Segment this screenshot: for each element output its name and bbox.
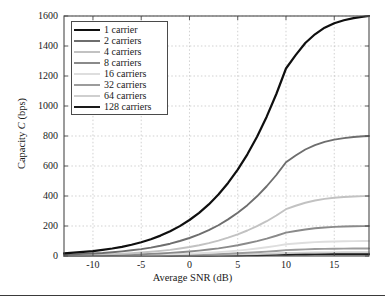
- legend-swatch: [74, 106, 100, 108]
- x-axis-title: Average SNR (dB): [0, 272, 385, 283]
- footer-divider: [0, 295, 385, 296]
- chart-legend[interactable]: 1 carrier2 carriers4 carriers8 carriers1…: [71, 21, 168, 115]
- legend-swatch: [74, 73, 100, 75]
- y-axis-title-prefix: Capacity: [16, 129, 27, 169]
- legend-label: 64 carriers: [104, 90, 146, 101]
- legend-label: 16 carriers: [104, 68, 146, 79]
- legend-item-16-carriers[interactable]: 16 carriers: [74, 68, 164, 79]
- legend-item-8-carriers[interactable]: 8 carriers: [74, 57, 164, 68]
- legend-item-64-carriers[interactable]: 64 carriers: [74, 90, 164, 101]
- legend-swatch: [74, 29, 100, 31]
- y-tick-label: 1600: [18, 10, 58, 21]
- legend-swatch: [74, 62, 100, 64]
- legend-swatch: [74, 84, 100, 86]
- legend-item-4-carriers[interactable]: 4 carriers: [74, 46, 164, 57]
- legend-swatch: [74, 95, 100, 97]
- y-axis-title-symbol: C: [16, 122, 27, 129]
- x-tick-label: 0: [169, 259, 209, 270]
- x-tick-label: -5: [121, 259, 161, 270]
- y-tick-label: 1400: [18, 40, 58, 51]
- legend-swatch: [74, 40, 100, 42]
- legend-item-32-carriers[interactable]: 32 carriers: [74, 79, 164, 90]
- legend-item-1-carrier[interactable]: 1 carrier: [74, 24, 164, 35]
- legend-label: 2 carriers: [104, 35, 141, 46]
- x-tick-label: 10: [266, 259, 306, 270]
- legend-item-2-carriers[interactable]: 2 carriers: [74, 35, 164, 46]
- legend-item-128-carriers[interactable]: 128 carriers: [74, 101, 164, 112]
- y-axis-title: Capacity C (bps): [16, 69, 27, 199]
- legend-swatch: [74, 51, 100, 53]
- x-tick-label: 5: [218, 259, 258, 270]
- x-tick-label: 15: [314, 259, 354, 270]
- y-axis-title-suffix: (bps): [16, 98, 27, 122]
- legend-label: 8 carriers: [104, 57, 141, 68]
- legend-label: 4 carriers: [104, 46, 141, 57]
- x-tick-label: -10: [73, 259, 113, 270]
- y-tick-label: 0: [18, 250, 58, 261]
- legend-label: 128 carriers: [104, 101, 151, 112]
- legend-label: 32 carriers: [104, 79, 146, 90]
- figure-capacity-vs-snr: 02004006008001000120014001600 -10-505101…: [0, 0, 385, 304]
- y-tick-label: 200: [18, 220, 58, 231]
- legend-label: 1 carrier: [104, 24, 138, 35]
